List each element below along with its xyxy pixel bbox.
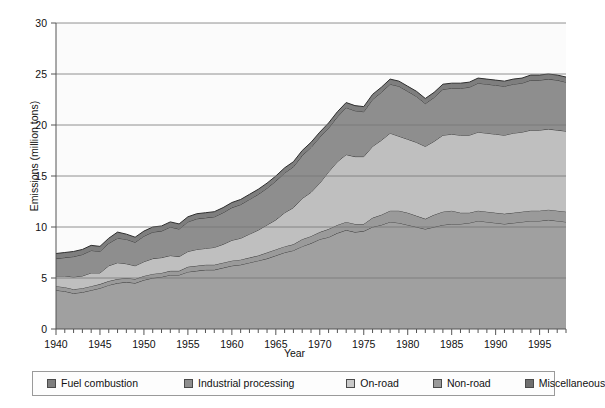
legend-item-miscellaneous[interactable]: Miscellaneous — [525, 378, 605, 389]
x-axis-title: Year — [0, 347, 589, 359]
y-tick-label: 0 — [41, 323, 47, 335]
legend-label: Fuel combustion — [61, 378, 138, 389]
chart-legend: Fuel combustionIndustrial processingOn-r… — [32, 371, 555, 396]
y-tick-label: 5 — [41, 272, 47, 284]
legend-label: Non-road — [447, 378, 491, 389]
legend-item-non-road[interactable]: Non-road — [433, 378, 491, 389]
legend-swatch-icon — [184, 379, 193, 388]
y-axis-title: Emissions (million tons) — [28, 76, 40, 236]
legend-label: On-road — [360, 378, 399, 389]
legend-swatch-icon — [433, 379, 442, 388]
legend-label: Industrial processing — [198, 378, 294, 389]
legend-item-industrial-processing[interactable]: Industrial processing — [184, 378, 294, 389]
y-tick-label: 30 — [35, 17, 47, 29]
legend-item-on-road[interactable]: On-road — [346, 378, 399, 389]
legend-label: Miscellaneous — [539, 378, 605, 389]
legend-swatch-icon — [47, 379, 56, 388]
legend-swatch-icon — [525, 379, 534, 388]
legend-swatch-icon — [346, 379, 355, 388]
legend-item-fuel-combustion[interactable]: Fuel combustion — [47, 378, 138, 389]
